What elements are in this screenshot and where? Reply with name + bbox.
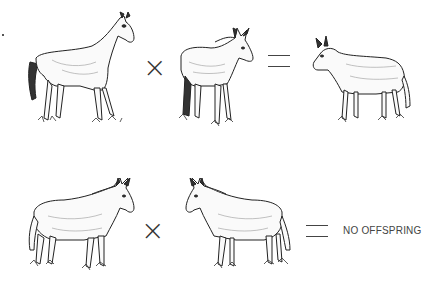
equals-operator [268, 55, 290, 67]
mule-figure [24, 176, 144, 271]
no-offspring-label: NO OFFSPRING [343, 225, 422, 236]
cross-operator: × [143, 54, 166, 82]
donkey-figure [175, 26, 260, 131]
mule-figure [182, 176, 297, 271]
horse-figure [22, 10, 142, 130]
cross-operator: × [141, 217, 164, 245]
equals-operator [306, 225, 328, 237]
mule-figure [302, 34, 417, 124]
stray-mark [2, 34, 4, 36]
